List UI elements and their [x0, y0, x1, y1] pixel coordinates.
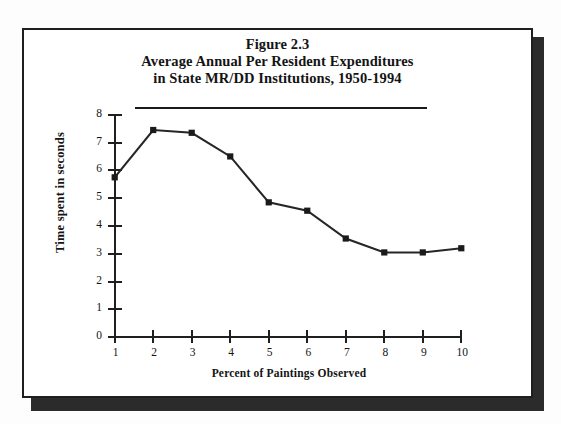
data-point-7	[343, 235, 349, 241]
data-point-5	[266, 199, 272, 205]
data-point-8	[381, 249, 387, 255]
data-point-4	[227, 153, 233, 159]
data-point-9	[420, 249, 426, 255]
data-series-svg	[24, 30, 531, 396]
figure-frame: Figure 2.3 Average Annual Per Resident E…	[22, 28, 533, 398]
series-markers	[112, 127, 465, 256]
series-line	[115, 130, 462, 252]
data-point-1	[112, 174, 118, 180]
data-point-2	[150, 127, 156, 133]
x-axis-title: Percent of Paintings Observed	[114, 367, 464, 379]
data-point-6	[304, 208, 310, 214]
data-point-10	[458, 245, 464, 251]
y-axis-title: Time spent in seconds	[53, 113, 68, 273]
data-point-3	[189, 130, 195, 136]
plot-area: 012345678 12345678910 Time spent in seco…	[24, 30, 531, 396]
